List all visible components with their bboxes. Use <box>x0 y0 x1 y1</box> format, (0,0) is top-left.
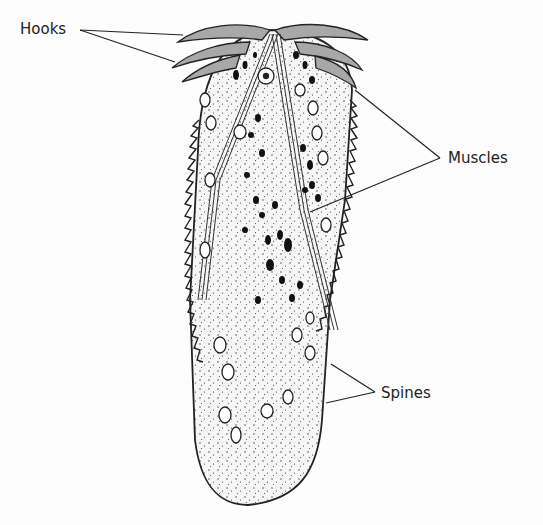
label-spines: Spines <box>381 384 431 402</box>
label-hooks: Hooks <box>20 20 66 38</box>
label-muscles: Muscles <box>448 149 508 167</box>
diagram-canvas <box>0 0 543 525</box>
